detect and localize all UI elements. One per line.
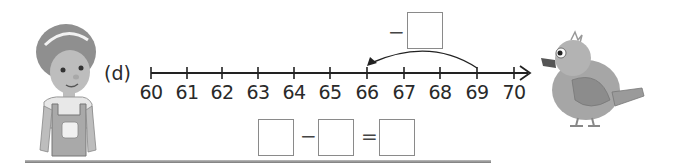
- tick-label-61: 61: [172, 81, 202, 103]
- tick-label-65: 65: [315, 81, 345, 103]
- jump-minus-sign: −: [388, 20, 405, 44]
- page-divider-line: [25, 160, 491, 163]
- jump-arc: [371, 51, 477, 68]
- equation-box-minuend[interactable]: [258, 119, 294, 156]
- equation-minus-sign: −: [300, 124, 317, 148]
- tick-label-63: 63: [243, 81, 273, 103]
- tick-label-69: 69: [462, 81, 492, 103]
- tick-label-66: 66: [352, 81, 382, 103]
- tick-label-70: 70: [499, 81, 529, 103]
- jump-answer-box[interactable]: [407, 12, 443, 49]
- tick-label-67: 67: [389, 81, 419, 103]
- equation-equals-sign: =: [361, 124, 378, 148]
- equation-box-difference[interactable]: [379, 119, 415, 156]
- equation-box-subtrahend[interactable]: [318, 119, 354, 156]
- tick-label-60: 60: [136, 81, 166, 103]
- tick-label-62: 62: [207, 81, 237, 103]
- tick-label-64: 64: [279, 81, 309, 103]
- part-label: (d): [104, 62, 131, 84]
- tick-label-68: 68: [425, 81, 455, 103]
